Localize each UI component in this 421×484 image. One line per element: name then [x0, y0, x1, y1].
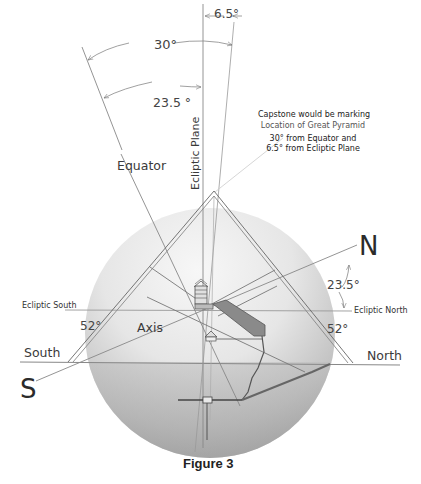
axis-tilt-label: 23.5° [327, 279, 360, 291]
slope-left-label: 52° [80, 320, 101, 332]
north-pole-label: N [359, 233, 378, 259]
pyramid-diagram [0, 0, 421, 484]
equator-reference [82, 47, 122, 150]
equator-label: Equator [117, 160, 166, 173]
south-label: South [24, 347, 60, 360]
subterranean-chamber [203, 397, 212, 403]
north-label: North [367, 350, 402, 363]
south-pole-label: S [20, 376, 37, 402]
annotation-line-1: Capstone would be marking [258, 110, 368, 121]
capstone-annotation: Capstone would be marking Location of Gr… [258, 110, 368, 155]
slope-right-label: 52° [327, 323, 348, 335]
axis-label: Axis [137, 322, 163, 335]
annotation-line-3: 30° from Equator and [258, 134, 368, 145]
annotation-line-4: 6.5° from Ecliptic Plane [258, 144, 368, 155]
ecliptic-south-label: Ecliptic South [22, 302, 77, 310]
figure-caption: Figure 3 [183, 457, 234, 470]
angle-6-5-label: 6.5° [214, 8, 239, 20]
annotation-line-2: Location of Great Pyramid [258, 121, 368, 132]
angle-30-label: 30° [154, 38, 177, 51]
ecliptic-plane-label: Ecliptic Plane [190, 117, 201, 190]
angle-23-5-label: 23.5 ° [153, 97, 191, 110]
ecliptic-north-label: Ecliptic North [354, 307, 408, 315]
